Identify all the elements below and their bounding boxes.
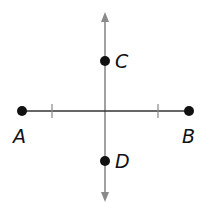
perpendicular-bisector-diagram: A B C D xyxy=(0,0,216,203)
point-d xyxy=(100,156,110,166)
arrow-up-icon xyxy=(101,12,109,22)
label-d: D xyxy=(115,150,130,172)
label-b: B xyxy=(182,125,195,147)
arrow-down-icon xyxy=(101,192,109,202)
point-b xyxy=(184,106,194,116)
point-a xyxy=(17,106,27,116)
point-c xyxy=(100,56,110,66)
label-a: A xyxy=(11,125,26,147)
label-c: C xyxy=(115,50,129,72)
